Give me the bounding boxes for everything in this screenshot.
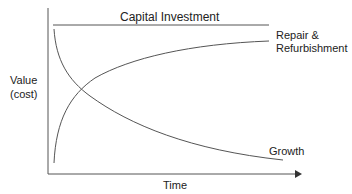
- x-axis-arrowhead-icon: [295, 170, 302, 178]
- x-axis-label: Time: [163, 179, 187, 192]
- series-label-repair-line2: Refurbishment: [276, 42, 348, 55]
- series-growth: [54, 29, 283, 160]
- series-repair-refurbishment: [54, 41, 269, 163]
- series-label-repair-line1: Repair &: [276, 29, 319, 42]
- y-axis-label-line1: Value: [10, 74, 37, 87]
- series-label-capital-investment: Capital Investment: [120, 11, 219, 24]
- series-label-growth: Growth: [269, 145, 304, 158]
- y-axis-label-line2: (cost): [10, 88, 38, 101]
